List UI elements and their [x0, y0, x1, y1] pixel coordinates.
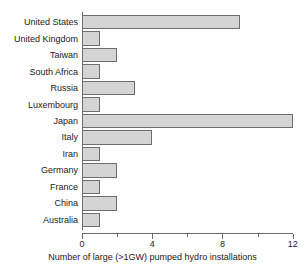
bar [82, 97, 100, 111]
bar [82, 163, 117, 177]
category-label: South Africa [29, 66, 78, 77]
bar-row: Germany [82, 162, 298, 178]
bar-row: Russia [82, 80, 298, 96]
bar-row: China [82, 195, 298, 211]
category-label: Iran [62, 148, 78, 159]
bar-row: Japan [82, 113, 298, 129]
bar-row: Luxembourg [82, 96, 298, 112]
bar-row: Australia [82, 212, 298, 228]
bar-row: France [82, 179, 298, 195]
category-label: Germany [41, 165, 78, 176]
bar [82, 196, 117, 210]
plot-area: United StatesUnited KingdomTaiwanSouth A… [82, 14, 298, 228]
bar-row: Italy [82, 129, 298, 145]
category-label: Australia [43, 214, 78, 225]
x-axis-tick [117, 234, 118, 237]
category-label: Russia [50, 83, 78, 94]
bar [82, 48, 117, 62]
x-axis-tick [258, 234, 259, 237]
bar [82, 147, 100, 161]
category-label: Taiwan [50, 50, 78, 61]
bar [82, 31, 100, 45]
category-label: France [50, 181, 78, 192]
x-axis-tick [187, 234, 188, 237]
bar-chart: United StatesUnited KingdomTaiwanSouth A… [0, 0, 305, 272]
bar-row: United Kingdom [82, 30, 298, 46]
bar [82, 15, 240, 29]
x-axis-tick-label: 4 [150, 239, 155, 250]
category-label: Luxembourg [28, 99, 78, 110]
category-label: China [54, 198, 78, 209]
bar-row: South Africa [82, 63, 298, 79]
x-axis-tick-label: 8 [220, 239, 225, 250]
bar [82, 114, 293, 128]
bar [82, 81, 135, 95]
x-axis-tick-label: 0 [79, 239, 84, 250]
category-label: United Kingdom [14, 33, 78, 44]
bar-row: Taiwan [82, 47, 298, 63]
x-axis-tick-label: 12 [288, 239, 298, 250]
bar [82, 180, 100, 194]
category-label: Japan [53, 115, 78, 126]
bar [82, 64, 100, 78]
bar [82, 213, 100, 227]
category-label: United States [24, 17, 78, 28]
x-axis-title: Number of large (>1GW) pumped hydro inst… [0, 252, 305, 263]
bar [82, 130, 152, 144]
bar-row: Iran [82, 146, 298, 162]
category-label: Italy [61, 132, 78, 143]
bar-row: United States [82, 14, 298, 30]
